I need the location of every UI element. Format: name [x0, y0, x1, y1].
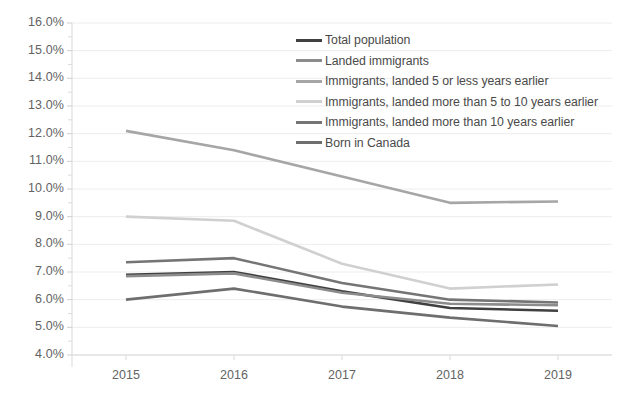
series-line-3: [126, 217, 558, 289]
legend-swatch-icon: [296, 59, 322, 62]
x-axis-tick-label: 2016: [204, 368, 264, 382]
legend-swatch-icon: [296, 100, 322, 103]
legend-swatch-icon: [296, 39, 322, 42]
line-chart: 16.0%15.0%14.0%13.0%12.0%11.0%10.0%9.0%8…: [0, 0, 633, 417]
legend-item-1[interactable]: Landed immigrants: [296, 51, 596, 72]
y-axis-tick-label: 12.0%: [6, 126, 64, 140]
series-lines: [126, 131, 558, 326]
legend-swatch-icon: [296, 80, 322, 83]
y-axis-tick-label: 14.0%: [6, 70, 64, 84]
legend-item-2[interactable]: Immigrants, landed 5 or less years earli…: [296, 71, 596, 92]
x-axis-tick-label: 2017: [312, 368, 372, 382]
legend-label: Immigrants, landed more than 10 years ea…: [325, 115, 574, 129]
y-axis-tick-label: 4.0%: [6, 347, 64, 361]
legend-swatch-icon: [296, 141, 322, 144]
y-axis-tick-label: 16.0%: [6, 15, 64, 29]
series-line-5: [126, 289, 558, 326]
x-axis-tick-label: 2019: [528, 368, 588, 382]
legend-item-4[interactable]: Immigrants, landed more than 10 years ea…: [296, 112, 596, 133]
legend-item-0[interactable]: Total population: [296, 30, 596, 51]
legend-label: Landed immigrants: [325, 54, 429, 68]
y-axis-tick-label: 9.0%: [6, 209, 64, 223]
y-axis-tick-label: 15.0%: [6, 43, 64, 57]
chart-legend: Total populationLanded immigrantsImmigra…: [296, 30, 596, 153]
y-axis-tick-label: 5.0%: [6, 319, 64, 333]
legend-label: Total population: [325, 33, 410, 47]
x-axis-tick-label: 2018: [420, 368, 480, 382]
y-axis-tick-label: 11.0%: [6, 153, 64, 167]
legend-item-3[interactable]: Immigrants, landed more than 5 to 10 yea…: [296, 92, 596, 113]
legend-label: Immigrants, landed 5 or less years earli…: [325, 74, 548, 88]
y-axis-tick-label: 10.0%: [6, 181, 64, 195]
legend-label: Immigrants, landed more than 5 to 10 yea…: [325, 95, 598, 109]
y-axis-tick-label: 13.0%: [6, 98, 64, 112]
legend-label: Born in Canada: [325, 136, 410, 150]
y-axis-tick-label: 7.0%: [6, 264, 64, 278]
legend-item-5[interactable]: Born in Canada: [296, 133, 596, 154]
y-axis-tick-label: 6.0%: [6, 292, 64, 306]
y-axis-tick-label: 8.0%: [6, 236, 64, 250]
x-axis-tick-label: 2015: [96, 368, 156, 382]
legend-swatch-icon: [296, 121, 322, 124]
